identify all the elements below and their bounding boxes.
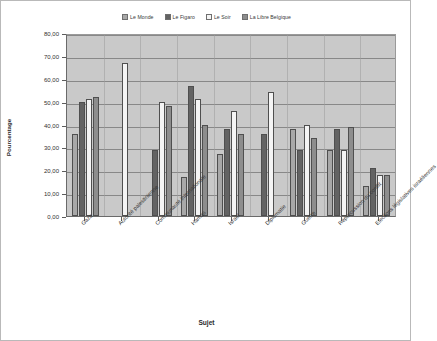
bar (202, 125, 208, 217)
bar (231, 111, 237, 216)
y-axis-tick (62, 34, 66, 35)
bar (268, 92, 274, 216)
y-axis-tick (62, 148, 66, 149)
y-axis-tick-label: 40,00 (21, 122, 59, 128)
y-axis-tick-label: 70,00 (21, 53, 59, 59)
y-axis-tick (62, 126, 66, 127)
legend-swatch-icon (242, 14, 248, 20)
bar-group (249, 35, 285, 216)
plot-wrapper (66, 34, 396, 217)
y-axis-tick-label: 20,00 (21, 168, 59, 174)
y-axis-tick-label: 10,00 (21, 191, 59, 197)
bar (166, 106, 172, 216)
bar (72, 134, 78, 216)
legend-item-0[interactable]: Le Monde (122, 14, 153, 20)
bar-group (103, 35, 139, 216)
chart-legend: Le MondeLe FigaroLe SoirLa Libre Belgiqu… (1, 11, 412, 23)
bar (79, 102, 85, 216)
bar (327, 150, 333, 216)
bar-groups (67, 35, 395, 216)
y-axis-title-label: Pourcentage (6, 118, 13, 155)
bar (188, 86, 194, 216)
y-axis-tick (62, 80, 66, 81)
bar (304, 125, 310, 217)
bar-group (286, 35, 322, 216)
legend-item-label: Le Figaro (173, 14, 195, 20)
legend-swatch-icon (122, 14, 128, 20)
y-axis-tick-label: 50,00 (21, 99, 59, 105)
bar (93, 97, 99, 216)
y-axis-tick (62, 103, 66, 104)
legend-item-1[interactable]: Le Figaro (165, 14, 195, 20)
bar (261, 134, 267, 216)
bar (334, 129, 340, 216)
legend-item-label: La Libre Belgique (250, 14, 291, 20)
x-axis-title: Sujet (1, 319, 412, 326)
y-axis-tick (62, 171, 66, 172)
bar-group (322, 35, 358, 216)
bar-group (67, 35, 103, 216)
bar (341, 150, 347, 216)
legend-swatch-icon (206, 14, 212, 20)
bar (159, 102, 165, 216)
y-axis-tick-label: 0,00 (21, 214, 59, 220)
bar (217, 154, 223, 216)
bar (238, 134, 244, 216)
y-axis-tick-label: 80,00 (21, 31, 59, 37)
y-axis-tick (62, 194, 66, 195)
bar (311, 138, 317, 216)
y-axis-tick-label: 30,00 (21, 145, 59, 151)
bar (86, 99, 92, 216)
legend-swatch-icon (165, 14, 171, 20)
bar (224, 129, 230, 216)
bar (290, 129, 296, 216)
legend-item-2[interactable]: Le Soir (206, 14, 231, 20)
bar (348, 127, 354, 216)
bar (195, 99, 201, 216)
y-axis-tick (62, 57, 66, 58)
legend-item-3[interactable]: La Libre Belgique (242, 14, 291, 20)
x-axis-labels: GazaAutorité palestinienneCommunauté int… (1, 220, 412, 315)
bar (122, 63, 128, 216)
legend-item-label: Le Monde (130, 14, 153, 20)
bar (297, 150, 303, 216)
y-axis-tick-label: 60,00 (21, 76, 59, 82)
bar-group (213, 35, 249, 216)
y-axis-title: Pourcentage (3, 87, 15, 187)
plot-area (66, 34, 396, 217)
legend-item-label: Le Soir (214, 14, 231, 20)
